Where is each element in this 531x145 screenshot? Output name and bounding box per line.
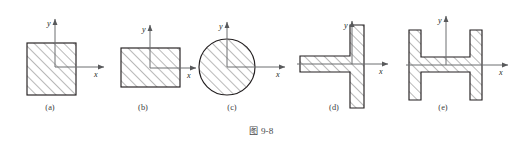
subfigure-a: x y (a) <box>27 19 104 112</box>
y-axis-label-b: y <box>141 25 146 34</box>
caption-cjk-text: 图 <box>249 126 258 136</box>
y-axis-label-a: y <box>46 19 51 28</box>
y-axis-label-c: y <box>218 22 223 31</box>
subfigure-d: x y (d) <box>297 21 388 112</box>
square-hatch-fill <box>27 43 76 95</box>
figure-caption: 图 9-8 <box>249 126 274 136</box>
x-axis-label-a: x <box>93 70 98 79</box>
x-axis-label-b: x <box>186 71 191 80</box>
subfigure-label-d: (d) <box>329 103 339 112</box>
subfigure-label-e: (e) <box>438 103 448 112</box>
subfigure-c: x y (c) <box>199 22 285 112</box>
y-axis-label-d: y <box>343 21 348 30</box>
y-axis-label-e: y <box>437 16 442 25</box>
subfigure-label-c: (c) <box>227 103 237 112</box>
caption-number-text: 9-8 <box>261 126 274 136</box>
x-axis-label-c: x <box>275 70 280 79</box>
figure-container: x y (a) x y (b) x y (c) <box>0 0 531 145</box>
subfigure-e: x y (e) <box>406 16 508 112</box>
figure-canvas: x y (a) x y (b) x y (c) <box>0 0 531 145</box>
subfigure-b: x y (b) <box>121 25 196 112</box>
subfigure-label-b: (b) <box>138 103 148 112</box>
subfigure-label-a: (a) <box>45 103 55 112</box>
tee-hatch-fill <box>300 25 364 108</box>
x-axis-label-e: x <box>498 68 503 77</box>
x-axis-label-d: x <box>378 67 383 76</box>
